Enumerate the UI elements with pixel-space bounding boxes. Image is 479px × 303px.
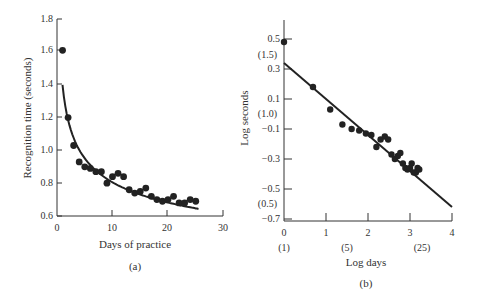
b-x-axis-title: Log days bbox=[346, 256, 387, 268]
a-ytick-1.6: 1.6 bbox=[41, 44, 54, 55]
a-data-points bbox=[59, 47, 199, 206]
b-x-ticks bbox=[326, 213, 452, 221]
b-data-point bbox=[385, 136, 391, 142]
a-data-point bbox=[104, 180, 111, 187]
a-data-point bbox=[120, 173, 127, 180]
a-ytick-0.8: 0.8 bbox=[41, 177, 54, 188]
a-xtick-20: 20 bbox=[162, 222, 172, 233]
b-xlabel-paren-5: (5) bbox=[341, 242, 353, 254]
b-data-point bbox=[310, 84, 316, 90]
b-ytick--0.3: −0.3 bbox=[262, 153, 280, 164]
a-data-point bbox=[76, 158, 83, 165]
a-data-point bbox=[70, 142, 77, 149]
a-ytick-1.8: 1.8 bbox=[41, 13, 54, 24]
a-data-point bbox=[65, 114, 72, 121]
b-ytick--0.5: −0.5 bbox=[262, 183, 280, 194]
a-ytick-1.2: 1.2 bbox=[41, 111, 54, 122]
b-data-point bbox=[363, 130, 369, 136]
b-data-point bbox=[327, 106, 333, 112]
b-xlabel-paren-1: (1) bbox=[278, 242, 290, 254]
b-data-point bbox=[408, 160, 414, 166]
a-x-ticks bbox=[112, 210, 223, 216]
b-ytick--0.1: −0.1 bbox=[262, 123, 280, 134]
b-ytick--0.7: −0.7 bbox=[262, 213, 280, 224]
b-data-point bbox=[348, 126, 354, 132]
a-ytick-1.0: 1.0 bbox=[41, 144, 54, 155]
a-x-axis-title: Days of practice bbox=[99, 238, 171, 250]
b-xlabel-paren-25: (25) bbox=[414, 242, 431, 254]
b-data-point bbox=[368, 132, 374, 138]
a-data-point bbox=[142, 185, 149, 192]
b-data-point bbox=[416, 166, 422, 172]
a-data-point bbox=[170, 193, 177, 200]
a-xtick-10: 10 bbox=[107, 222, 117, 233]
b-data-point bbox=[373, 144, 379, 150]
a-data-point bbox=[98, 168, 105, 175]
b-xtick-4: 4 bbox=[450, 227, 455, 238]
a-ytick-1.4: 1.4 bbox=[41, 78, 54, 89]
a-data-point bbox=[59, 47, 66, 54]
b-ytick-0.1: 0.1 bbox=[268, 93, 281, 104]
figure: 0.6 0.8 1.0 1.2 1.4 1.6 1.8 0 10 20 30 D… bbox=[0, 0, 479, 303]
b-ylabel-paren-0.5: (0.5) bbox=[258, 198, 277, 210]
b-data-point bbox=[281, 39, 287, 45]
b-xtick-3: 3 bbox=[408, 227, 413, 238]
b-panel-label: (b) bbox=[360, 277, 373, 290]
b-ylabel-paren-1.5: (1.5) bbox=[258, 49, 277, 61]
b-y-axis-title: Log seconds bbox=[238, 90, 250, 145]
b-xtick-2: 2 bbox=[366, 227, 371, 238]
a-panel-label: (a) bbox=[129, 260, 142, 273]
b-data-point bbox=[339, 121, 345, 127]
a-xtick-0: 0 bbox=[55, 222, 60, 233]
panel-a: 0.6 0.8 1.0 1.2 1.4 1.6 1.8 0 10 20 30 D… bbox=[21, 13, 228, 273]
b-ytick-0.3: 0.3 bbox=[268, 63, 281, 74]
b-data-points bbox=[281, 39, 423, 176]
b-ytick-0.5: 0.5 bbox=[268, 33, 281, 44]
panel-b: 0.5 0.3 0.1 −0.1 −0.3 −0.5 −0.7 (1.5) (1… bbox=[238, 20, 455, 290]
a-ytick-0.6: 0.6 bbox=[41, 210, 54, 221]
a-data-point bbox=[192, 198, 199, 205]
b-xtick-0: 0 bbox=[282, 227, 287, 238]
b-ylabel-paren-1.0: (1.0) bbox=[258, 108, 277, 120]
b-data-point bbox=[356, 127, 362, 133]
a-y-axis-title: Recognition time (seconds) bbox=[21, 57, 34, 178]
b-data-point bbox=[397, 150, 403, 156]
a-xtick-30: 30 bbox=[218, 222, 228, 233]
b-xtick-1: 1 bbox=[324, 227, 329, 238]
